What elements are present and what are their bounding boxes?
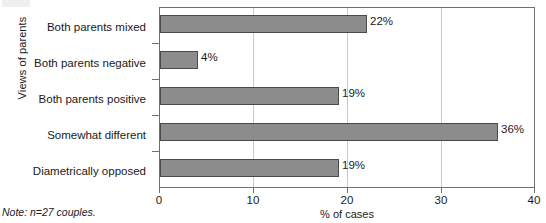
x-axis-title: % of cases	[159, 208, 535, 220]
bar-both-parents-negative	[160, 51, 198, 69]
x-axis-tick-label-10: 10	[233, 194, 273, 206]
category-label-both-parents-positive: Both parents positive	[0, 93, 146, 106]
x-axis-tick-0	[159, 188, 160, 193]
y-axis-tick	[152, 43, 159, 44]
category-label-diametrically-opposed: Diametrically opposed	[0, 165, 146, 178]
x-axis-tick-30	[441, 188, 442, 193]
bar-both-parents-mixed	[160, 15, 367, 33]
x-axis-tick-label-20: 20	[327, 194, 367, 206]
category-label-both-parents-mixed: Both parents mixed	[0, 21, 146, 34]
x-axis-tick-label-0: 0	[139, 194, 179, 206]
bar-diametrically-opposed	[160, 159, 339, 177]
bar-somewhat-different	[160, 123, 498, 141]
value-label-both-parents-positive: 19%	[342, 87, 365, 100]
x-axis-tick-label-40: 40	[514, 194, 546, 206]
figure-note-text: n=27 couples.	[30, 206, 96, 218]
x-axis-tick-label-30: 30	[421, 194, 461, 206]
gridline-30	[441, 8, 442, 187]
category-label-both-parents-negative: Both parents negative	[0, 57, 146, 70]
y-axis-tick	[152, 115, 159, 116]
x-axis-tick-10	[253, 188, 254, 193]
value-label-somewhat-different: 36%	[501, 123, 524, 136]
x-axis-tick-20	[347, 188, 348, 193]
figure-note: Note: n=27 couples.	[2, 206, 96, 218]
value-label-both-parents-negative: 4%	[201, 51, 218, 64]
bar-chart-figure: Views of parents Both parents mixed Both…	[0, 0, 546, 223]
value-label-both-parents-mixed: 22%	[370, 15, 393, 28]
value-label-diametrically-opposed: 19%	[342, 159, 365, 172]
y-axis-tick	[152, 151, 159, 152]
figure-note-prefix: Note:	[2, 206, 27, 218]
bar-both-parents-positive	[160, 87, 339, 105]
y-axis-tick	[152, 79, 159, 80]
category-label-list: Both parents mixed Both parents negative…	[0, 7, 152, 188]
x-axis-tick-40	[534, 188, 535, 193]
category-label-somewhat-different: Somewhat different	[0, 129, 146, 142]
